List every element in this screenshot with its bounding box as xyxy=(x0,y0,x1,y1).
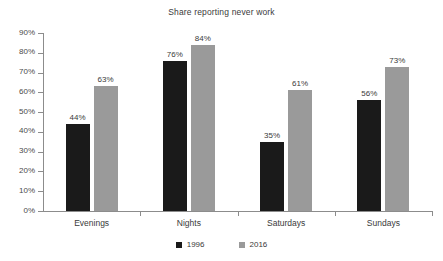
y-axis-tick-label: 40% xyxy=(19,126,35,135)
legend-label: 2016 xyxy=(250,241,268,249)
x-axis-category-label: Nights xyxy=(140,218,237,228)
bar xyxy=(191,45,215,211)
legend-label: 1996 xyxy=(187,241,205,249)
legend-item[interactable]: 1996 xyxy=(176,241,205,249)
bar xyxy=(385,67,409,211)
y-axis-tick-label: 90% xyxy=(19,28,35,37)
x-axis-category-label: Saturdays xyxy=(238,218,335,228)
y-axis-tick-label: 50% xyxy=(19,107,35,116)
bar-value-label: 76% xyxy=(157,50,193,59)
bar-value-label: 56% xyxy=(351,89,387,98)
plot-area: 44%63%76%84%35%61%56%73% xyxy=(43,33,432,211)
bar-value-label: 44% xyxy=(60,113,96,122)
bar-value-label: 63% xyxy=(88,75,124,84)
x-axis-tick xyxy=(140,211,141,216)
x-axis-tick xyxy=(335,211,336,216)
legend-swatch-icon xyxy=(239,242,245,248)
bar xyxy=(66,124,90,211)
x-axis-category-label: Sundays xyxy=(335,218,432,228)
chart-title: Share reporting never work xyxy=(0,7,443,17)
bar xyxy=(288,90,312,211)
y-axis-tick-label: 10% xyxy=(19,186,35,195)
bar-value-label: 73% xyxy=(379,56,415,65)
y-axis-tick-label: 70% xyxy=(19,67,35,76)
bar-value-label: 35% xyxy=(254,131,290,140)
bar xyxy=(94,86,118,211)
chart-legend: 19962016 xyxy=(0,241,443,249)
x-axis-category-label: Evenings xyxy=(43,218,140,228)
y-axis-tick-label: 60% xyxy=(19,87,35,96)
legend-item[interactable]: 2016 xyxy=(239,241,268,249)
legend-swatch-icon xyxy=(176,242,182,248)
bar xyxy=(357,100,381,211)
bar xyxy=(163,61,187,211)
bar-chart: Share reporting never work 0%10%20%30%40… xyxy=(0,0,443,261)
y-axis-tick-label: 80% xyxy=(19,47,35,56)
bar-value-label: 61% xyxy=(282,79,318,88)
bar-value-label: 84% xyxy=(185,34,221,43)
bar xyxy=(260,142,284,211)
x-axis-tick xyxy=(432,211,433,216)
y-axis-tick-label: 20% xyxy=(19,166,35,175)
y-axis-tick-label: 0% xyxy=(23,206,35,215)
y-axis-tick-label: 30% xyxy=(19,146,35,155)
x-axis-tick xyxy=(238,211,239,216)
y-axis-tick: 0% xyxy=(38,211,43,212)
